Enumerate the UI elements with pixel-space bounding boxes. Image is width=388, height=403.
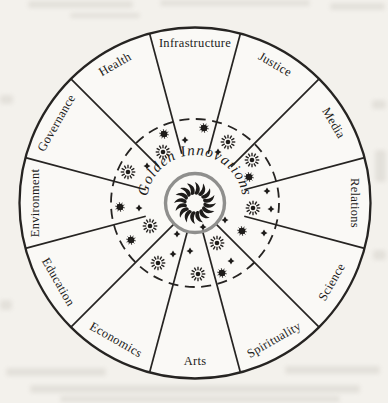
scanned-page: InfrastructureJusticeMediaRelationsScien…: [0, 0, 388, 403]
sector-label-infrastructure: Infrastructure: [159, 36, 231, 50]
sector-label-arts: Arts: [184, 354, 207, 368]
center-ring: [166, 174, 225, 233]
wheel-diagram: InfrastructureJusticeMediaRelationsScien…: [0, 0, 388, 403]
sector-label-relations: Relations: [348, 178, 362, 228]
sector-label-environment: Environment: [28, 168, 42, 237]
